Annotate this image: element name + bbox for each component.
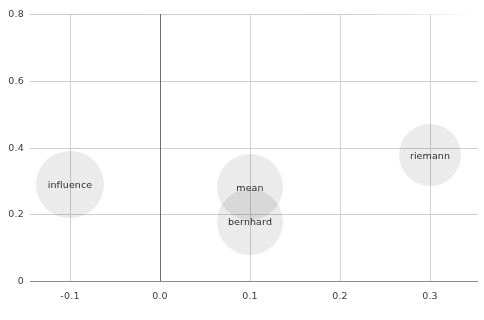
y-axis-tick-label: 0 <box>0 275 24 286</box>
bubble-label: influence <box>48 179 93 190</box>
bubble-riemann[interactable]: riemann <box>399 124 461 186</box>
x-axis-tick-label: 0.2 <box>310 290 370 301</box>
x-axis-tick-label: -0.1 <box>40 290 100 301</box>
x-axis-line <box>30 281 478 282</box>
x-axis-tick-label: 0.1 <box>220 290 280 301</box>
bubble-label: riemann <box>410 150 450 161</box>
bubble-label: bernhard <box>228 216 272 227</box>
y-axis-tick-label: 0.2 <box>0 208 24 219</box>
y-axis-tick-label: 0.4 <box>0 142 24 153</box>
bubble-chart: 00.20.40.60.8-0.10.00.10.20.3influenceme… <box>0 0 484 320</box>
gridline-horizontal <box>30 14 478 15</box>
x-axis-tick-label: 0.0 <box>130 290 190 301</box>
bubble-bernhard[interactable]: bernhard <box>217 189 283 255</box>
plot-area: 00.20.40.60.8-0.10.00.10.20.3influenceme… <box>0 0 484 320</box>
y-axis-line <box>160 14 161 281</box>
gridline-horizontal <box>30 81 478 82</box>
y-axis-tick-label: 0.6 <box>0 75 24 86</box>
x-axis-tick-label: 0.3 <box>400 290 460 301</box>
gridline-vertical <box>70 14 71 281</box>
bubble-influence[interactable]: influence <box>36 151 103 218</box>
y-axis-tick-label: 0.8 <box>0 8 24 19</box>
gridline-vertical <box>340 14 341 281</box>
